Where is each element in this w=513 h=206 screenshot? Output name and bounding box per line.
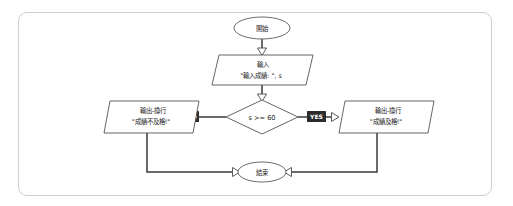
node-decision[interactable]: s >= 60 bbox=[226, 100, 298, 134]
node-end[interactable]: 結束 bbox=[238, 162, 286, 182]
node-decision-label: s >= 60 bbox=[248, 114, 275, 122]
node-output-fail[interactable]: 輸出-換行 "成績不及格!" bbox=[104, 101, 199, 133]
edge-pass-to-end bbox=[284, 133, 377, 177]
node-output-pass-line1: 輸出-換行 bbox=[375, 106, 402, 115]
node-input-line1: 輸入 bbox=[257, 60, 270, 69]
edge-start-to-input bbox=[258, 39, 267, 56]
node-output-fail-line1: 輸出-換行 bbox=[140, 106, 167, 115]
node-start-label: 開始 bbox=[256, 24, 269, 33]
node-input-line2: "輸入成績: ", s bbox=[240, 71, 282, 80]
node-output-pass-line2: "成績及格!" bbox=[370, 117, 403, 126]
node-input[interactable]: 輸入 "輸入成績: ", s bbox=[212, 55, 313, 85]
node-end-label: 結束 bbox=[256, 168, 269, 177]
flowchart-canvas: 開始 輸入 "輸入成績: ", s s >= 60 NO YES 輸出-換行 "… bbox=[0, 0, 513, 206]
edge-input-to-decision bbox=[258, 85, 267, 102]
edge-fail-to-end bbox=[147, 133, 240, 177]
branch-label-yes-text: YES bbox=[309, 113, 323, 120]
node-output-pass[interactable]: 輸出-換行 "成績及格!" bbox=[339, 101, 434, 133]
flowchart-svg: 開始 輸入 "輸入成績: ", s s >= 60 NO YES 輸出-換行 "… bbox=[0, 0, 513, 206]
node-output-fail-line2: "成績不及格!" bbox=[132, 117, 171, 126]
branch-label-yes: YES bbox=[307, 111, 326, 122]
node-start[interactable]: 開始 bbox=[234, 17, 290, 39]
